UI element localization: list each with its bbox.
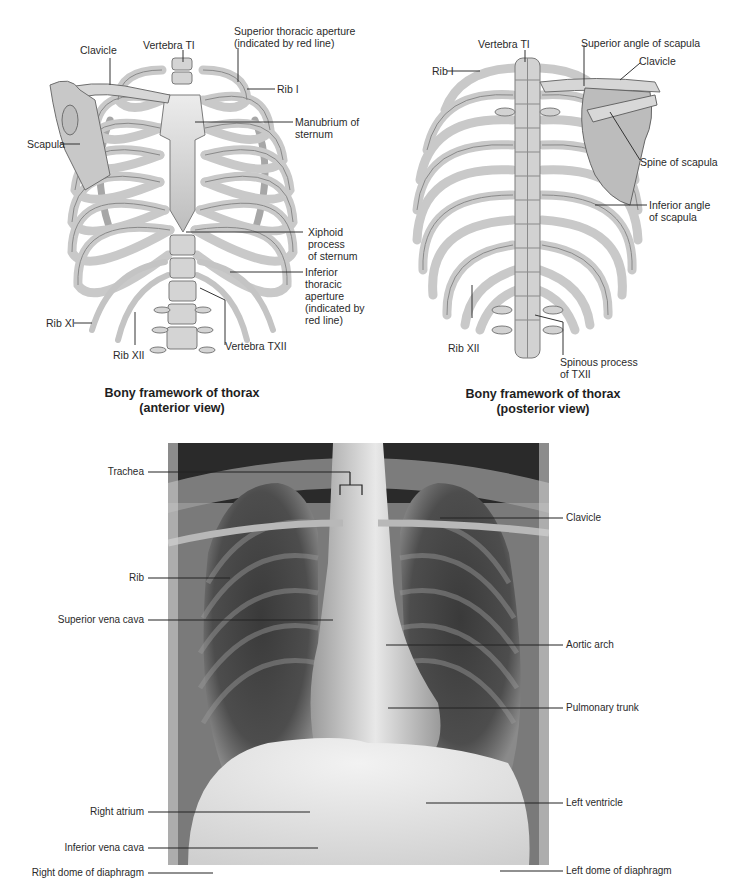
xray-label-clavicle: Clavicle	[566, 512, 601, 523]
xray-label-trachea: Trachea	[108, 466, 144, 477]
label-inferior-angle-scapula: Inferior angle of scapula	[649, 199, 710, 223]
label-rib-12-posterior: Rib XII	[448, 342, 480, 354]
xray-rendering	[168, 443, 549, 865]
xray-label-aortic-arch: Aortic arch	[566, 639, 614, 650]
xray-label-right-atrium: Right atrium	[90, 806, 144, 817]
label-vertebra-t1-posterior: Vertebra TI	[478, 38, 530, 50]
label-spine-of-scapula: Spine of scapula	[640, 156, 718, 168]
label-clavicle-posterior: Clavicle	[639, 55, 676, 67]
anterior-view-panel: Clavicle Vertebra TI Superior thoracic a…	[0, 0, 365, 385]
label-manubrium: Manubrium of sternum	[295, 116, 359, 140]
label-inferior-thoracic-aperture: Inferior thoracic aperture (indicated by…	[305, 266, 365, 326]
label-rib-11: Rib XI	[46, 317, 75, 329]
xray-label-pulmonary-trunk: Pulmonary trunk	[566, 702, 639, 713]
label-scapula: Scapula	[27, 138, 65, 150]
label-rib-1-posterior: Rib I	[432, 65, 454, 77]
label-vertebra-t12: Vertebra TXII	[225, 340, 287, 352]
label-xiphoid-process: Xiphoid process of sternum	[308, 226, 365, 262]
label-rib-12: Rib XII	[113, 349, 145, 361]
xray-label-superior-vena-cava: Superior vena cava	[58, 614, 144, 625]
xray-label-rib: Rib	[129, 572, 144, 583]
label-superior-angle-scapula: Superior angle of scapula	[581, 37, 700, 49]
xray-label-right-dome-diaphragm: Right dome of diaphragm	[32, 867, 144, 878]
posterior-caption: Bony framework of thorax (posterior view…	[443, 387, 643, 417]
label-clavicle: Clavicle	[80, 44, 117, 56]
label-vertebra-t1: Vertebra TI	[143, 39, 195, 51]
label-rib-1: Rib I	[277, 83, 299, 95]
xray-label-inferior-vena-cava: Inferior vena cava	[65, 842, 145, 853]
anterior-caption: Bony framework of thorax (anterior view)	[82, 386, 282, 416]
xray-label-left-dome-diaphragm: Left dome of diaphragm	[566, 865, 672, 876]
label-spinous-process-t12: Spinous process of TXII	[560, 356, 638, 380]
label-superior-thoracic-aperture: Superior thoracic aperture (indicated by…	[234, 25, 355, 49]
chest-xray-image	[168, 443, 549, 865]
posterior-view-panel: Vertebra TI Superior angle of scapula Cl…	[365, 0, 731, 420]
xray-label-left-ventricle: Left ventricle	[566, 797, 623, 808]
